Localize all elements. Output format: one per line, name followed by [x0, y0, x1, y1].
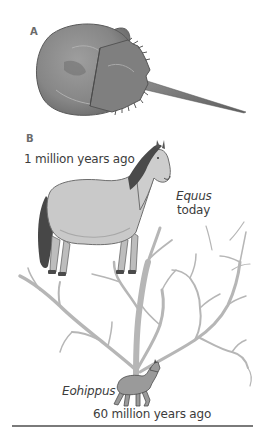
eohippus-illustration	[0, 0, 263, 441]
ancestor-species-label: Eohippus	[62, 384, 115, 398]
bottom-time-caption: 60 million years ago	[93, 407, 211, 421]
bottom-divider	[12, 425, 253, 427]
